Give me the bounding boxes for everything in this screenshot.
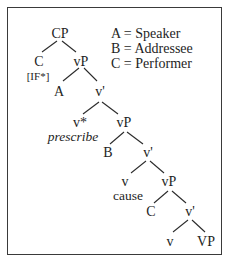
node-b: B	[103, 145, 112, 160]
node-vp-3: vP	[162, 174, 177, 189]
node-vbar-2: v'	[143, 145, 153, 160]
branch-vp-a	[63, 68, 79, 81]
branch-vp2-vbar2	[127, 132, 143, 144]
branch-vbar3-vp	[192, 220, 205, 232]
legend: A = Speaker B = Addressee C = Performer	[111, 26, 193, 71]
branch-vbar2-v	[131, 161, 146, 173]
branch-vbar-vp2	[102, 102, 118, 114]
node-c-feature: [IF*]	[27, 70, 50, 82]
node-a: A	[54, 84, 65, 99]
legend-item-addressee: B = Addressee	[111, 41, 193, 56]
branch-cp-c	[42, 41, 57, 52]
branch-vbar3-v	[173, 220, 188, 232]
legend-item-performer: C = Performer	[111, 56, 192, 71]
node-vp-final: VP	[197, 234, 215, 249]
node-vstar: v*	[73, 115, 87, 130]
node-v-1-gloss: cause	[113, 188, 143, 203]
node-c: C	[34, 54, 43, 69]
branch-vbar2-vp3	[150, 161, 164, 173]
node-vbar-1: v'	[95, 84, 105, 99]
node-cp: CP	[51, 26, 68, 41]
legend-item-speaker: A = Speaker	[111, 26, 181, 41]
node-c-2: C	[146, 204, 155, 219]
branch-vp-vbar	[84, 68, 97, 81]
node-vbar-3: v'	[185, 204, 195, 219]
node-v-2: v	[167, 234, 174, 249]
branch-vp2-b	[110, 132, 124, 144]
syntax-tree-diagram: CP C [IF*] vP A v' v* prescribe vP B v' …	[0, 0, 231, 263]
node-vp-1: vP	[74, 54, 89, 69]
node-vstar-gloss: prescribe	[47, 129, 99, 144]
branch-cp-vp	[62, 41, 76, 52]
branch-vp3-vbar3	[172, 191, 186, 203]
branch-vp3-c	[154, 191, 168, 203]
node-vp-2: vP	[117, 115, 132, 130]
branch-vbar-vstar	[83, 102, 99, 114]
node-v-1: v	[122, 174, 129, 189]
